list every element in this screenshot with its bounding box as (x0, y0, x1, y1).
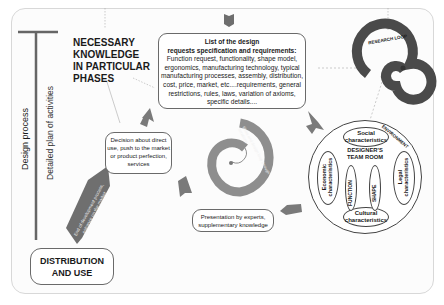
necessary-knowledge-heading: NECESSARY KNOWLEDGE IN PARTICULAR PHASES (73, 37, 150, 85)
book-icon (224, 14, 234, 27)
distribution-line: DISTRIBUTION (31, 255, 113, 267)
legal-characteristics: Legal characteristics (393, 151, 415, 205)
function-oval: FUNCTION (345, 165, 357, 211)
knowledge-line: NECESSARY (73, 37, 150, 49)
function-label: FUNCTION (347, 180, 354, 206)
presentation-box: Presentation by experts, supplementary k… (192, 209, 274, 232)
legal-label: Legal characteristics (397, 154, 409, 200)
detailed-plan-label: Detailed plan of activities (45, 86, 55, 180)
distribution-line: AND USE (31, 267, 113, 279)
spec-title-1: List of the design (159, 38, 305, 47)
decision-box: Decision about direct use, push to the m… (105, 132, 172, 174)
environment-circle: Social characteristics Cultural characte… (308, 120, 422, 234)
knowledge-line: IN PARTICULAR (73, 61, 150, 73)
shape-oval: SHAPE (369, 165, 381, 211)
spec-title-2: requests specification and requirements: (159, 47, 305, 56)
design-process-label: Design process (20, 108, 30, 170)
spec-requirements-box: List of the design requests specificatio… (158, 33, 306, 109)
knowledge-line: KNOWLEDGE (73, 49, 150, 61)
social-characteristics: Social characteristics (343, 127, 389, 147)
spec-body: Function request, functionality, shape m… (161, 55, 303, 105)
economic-label: Economic characteristics (321, 154, 333, 200)
team-room-label: DESIGNER'S TEAM ROOM (343, 147, 387, 161)
economic-characteristics: Economic characteristics (317, 151, 339, 205)
distribution-box: DISTRIBUTION AND USE (30, 248, 114, 285)
knowledge-line: PHASES (73, 73, 150, 85)
shape-label: SHAPE (371, 185, 378, 202)
